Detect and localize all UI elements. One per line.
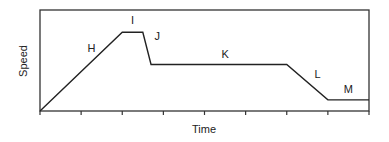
segment-label-j: J	[154, 30, 160, 42]
segment-label-h: H	[87, 42, 95, 54]
segment-labels: HIJKLM	[87, 14, 353, 95]
plot-frame	[40, 10, 369, 111]
segment-label-k: K	[221, 48, 229, 60]
speed-time-chart: HIJKLM Time Speed	[0, 0, 389, 142]
y-axis-label: Speed	[17, 45, 29, 77]
segment-label-i: I	[131, 14, 134, 26]
x-axis-label: Time	[192, 123, 216, 135]
segment-label-l: L	[315, 68, 321, 80]
segment-label-m: M	[344, 83, 353, 95]
